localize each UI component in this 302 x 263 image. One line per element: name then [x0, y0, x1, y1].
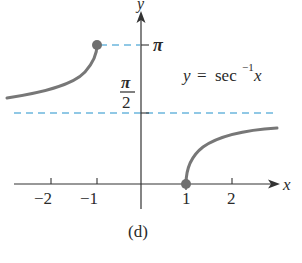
tick-label-2: 2 — [227, 189, 236, 208]
svg-text:sec: sec — [215, 66, 237, 85]
pi-label: π — [153, 35, 164, 55]
y-ticks — [141, 45, 149, 113]
right-branch-curve — [186, 128, 277, 184]
graph-figure: y x π π 2 −2 −1 1 2 y = sec −1 x (d) — [0, 0, 302, 263]
tick-label-1: 1 — [182, 189, 191, 208]
endpoint-dot-right — [181, 179, 191, 189]
tick-label-minus-1: −1 — [80, 189, 98, 208]
y-axis-label: y — [135, 0, 145, 13]
left-branch-curve — [7, 45, 97, 98]
figure-caption: (d) — [128, 222, 148, 241]
tick-label-minus-2: −2 — [34, 189, 52, 208]
svg-text:=: = — [197, 66, 207, 85]
graph-svg: y x π π 2 −2 −1 1 2 y = sec −1 x (d) — [0, 0, 302, 263]
svg-text:x: x — [253, 66, 262, 85]
x-axis-label: x — [282, 175, 291, 194]
half-pi-denominator: 2 — [122, 93, 131, 112]
equation-label: y = sec −1 x — [181, 61, 262, 85]
half-pi-numerator: π — [121, 73, 131, 92]
endpoint-dot-left — [92, 40, 102, 50]
svg-text:−1: −1 — [242, 61, 254, 73]
svg-text:y: y — [181, 66, 191, 85]
